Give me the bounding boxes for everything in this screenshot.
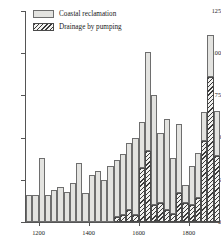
y-tick-mark bbox=[21, 180, 25, 181]
x-tick-mark bbox=[139, 222, 140, 226]
chart-legend: Coastal reclamation Drainage by pumping bbox=[33, 8, 122, 34]
x-tick-label: 1200 bbox=[24, 229, 54, 236]
bar-segment-drainage bbox=[214, 156, 220, 222]
legend-label-coastal: Coastal reclamation bbox=[59, 10, 116, 18]
x-axis-line bbox=[25, 222, 220, 223]
x-tick-mark bbox=[189, 222, 190, 226]
legend-item-coastal-reclamation: Coastal reclamation bbox=[33, 8, 122, 19]
y-tick-mark bbox=[21, 11, 25, 12]
legend-swatch-coastal-icon bbox=[33, 10, 54, 18]
x-tick-label: 1400 bbox=[74, 229, 104, 236]
x-tick-mark bbox=[89, 222, 90, 226]
y-tick-mark bbox=[21, 95, 25, 96]
x-tick-label: 1800 bbox=[174, 229, 204, 236]
bar-group bbox=[214, 11, 220, 222]
legend-label-drainage: Drainage by pumping bbox=[59, 23, 122, 31]
x-tick-label: 1600 bbox=[124, 229, 154, 236]
y-tick-mark bbox=[21, 138, 25, 139]
plot-area bbox=[26, 11, 220, 222]
legend-item-drainage-by-pumping: Drainage by pumping bbox=[33, 21, 122, 32]
y-tick-mark bbox=[21, 53, 25, 54]
x-tick-mark bbox=[39, 222, 40, 226]
chart-container: 0255075100125 1200140016001800 Coastal r… bbox=[0, 0, 221, 242]
bar-segment-coastal bbox=[214, 111, 220, 157]
legend-swatch-drainage-icon bbox=[33, 23, 54, 31]
